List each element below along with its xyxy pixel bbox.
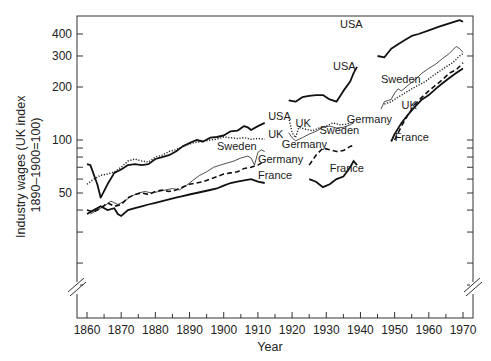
x-tick-label: 1890 [176,323,203,337]
x-axis-title: Year [257,340,282,354]
series-label-sweden: Sweden [217,140,257,152]
plot-frame [77,16,473,318]
series-label-france: France [258,169,292,181]
y-axis-title-line1: Industry wages (UK index [14,95,28,238]
series-line-usa [87,123,265,198]
series-label-uk: UK [401,99,417,111]
y-tick-label: 50 [59,186,73,200]
x-tick-label: 1940 [347,323,374,337]
series-label-france: France [330,162,364,174]
series-label-germany: Germany [258,153,304,165]
y-axis-title-line2: 1890–1900=100) [29,118,43,213]
series-label-usa: USA [268,110,291,122]
y-tick-label: 100 [52,133,72,147]
y-tick-label: 400 [52,27,72,41]
x-tick-label: 1950 [381,323,408,337]
line-chart: 1860187018801890190019101920193019401950… [0,0,491,361]
series-label-sweden: Sweden [381,73,421,85]
x-tick-label: 1870 [108,323,135,337]
y-tick-label: 200 [52,80,72,94]
series-line-france [87,179,265,216]
series-label-usa: USA [333,60,356,72]
series-label-uk: UK [296,117,312,129]
series-label-germany: Germany [282,138,328,150]
x-tick-label: 1910 [245,323,272,337]
series-label-france: France [395,131,429,143]
x-tick-label: 1960 [415,323,442,337]
series-label-germany: Germany [347,113,393,125]
y-tick-label: 300 [52,49,72,63]
axis-titles: Year Industry wages (UK index 1890–1900=… [14,92,283,354]
x-tick-label: 1860 [74,323,101,337]
x-tick-label: 1930 [313,323,340,337]
series-label-sweden: Sweden [319,124,359,136]
x-tick-label: 1970 [450,323,477,337]
x-tick-label: 1880 [142,323,169,337]
y-axis-title: Industry wages (UK index 1890–1900=100) [14,92,43,238]
x-tick-label: 1920 [279,323,306,337]
series-line-usa [378,20,464,57]
x-tick-label: 1900 [210,323,237,337]
series-label-usa: USA [340,18,363,30]
series-line-germany [87,161,265,212]
series-line-usa [289,67,357,102]
